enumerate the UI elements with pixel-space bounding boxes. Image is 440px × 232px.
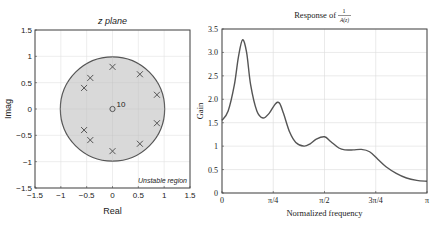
z-plane-title: z plane <box>97 16 127 26</box>
z-plane-ylabel: Imag <box>3 99 13 119</box>
svg-text:2.5: 2.5 <box>208 72 218 81</box>
svg-text:0: 0 <box>214 189 218 198</box>
svg-text:π: π <box>425 196 429 205</box>
svg-text:0.5: 0.5 <box>133 191 145 200</box>
svg-text:10: 10 <box>117 100 126 109</box>
response-title-denominator: A(z) <box>339 17 349 24</box>
svg-text:π/4: π/4 <box>268 196 278 205</box>
svg-text:0: 0 <box>28 105 33 114</box>
svg-text:2.0: 2.0 <box>208 95 218 104</box>
svg-text:1: 1 <box>28 52 33 61</box>
unstable-region-annotation: Unstable region <box>138 177 187 185</box>
svg-text:1: 1 <box>162 191 167 200</box>
svg-text:3π/4: 3π/4 <box>369 196 383 205</box>
svg-text:−1: −1 <box>56 191 66 200</box>
svg-text:−0.5: −0.5 <box>79 191 95 200</box>
frequency-response-plot: 0π/4π/23π/4π3.53.02.52.01.510.50 Respons… <box>195 8 429 218</box>
svg-text:−0.5: −0.5 <box>16 131 32 140</box>
response-title: Response of 1 A(z) <box>294 8 351 24</box>
figure: 10 −1.5−1−0.500.511.51.510.50−0.5−1−1.5 … <box>0 0 440 232</box>
svg-text:3.5: 3.5 <box>208 25 218 34</box>
z-plane-xlabel: Real <box>103 206 122 216</box>
svg-text:3.0: 3.0 <box>208 48 218 57</box>
svg-text:1.5: 1.5 <box>208 119 218 128</box>
response-title-numerator: 1 <box>343 8 346 14</box>
response-title-prefix: Response of <box>294 10 336 20</box>
response-ylabel: Gain <box>195 102 205 119</box>
svg-text:π/2: π/2 <box>319 196 329 205</box>
svg-text:1.5: 1.5 <box>21 26 33 35</box>
svg-text:0.5: 0.5 <box>21 79 33 88</box>
svg-text:1: 1 <box>214 142 218 151</box>
svg-text:−1.5: −1.5 <box>16 184 32 193</box>
z-plane-plot: 10 −1.5−1−0.500.511.51.510.50−0.5−1−1.5 … <box>3 16 196 216</box>
svg-text:0: 0 <box>220 196 224 205</box>
svg-text:0: 0 <box>110 191 115 200</box>
response-xlabel: Normalized frequency <box>286 208 363 218</box>
svg-text:1.5: 1.5 <box>184 191 196 200</box>
svg-text:−1: −1 <box>23 158 33 167</box>
svg-text:0.5: 0.5 <box>208 166 218 175</box>
